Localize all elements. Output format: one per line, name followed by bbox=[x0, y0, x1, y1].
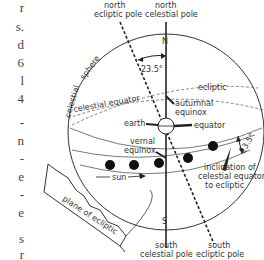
autumnal-pointer bbox=[166, 96, 174, 104]
south-ecliptic-pole-label-2: ecliptic pole bbox=[196, 250, 244, 259]
n-marker: N bbox=[162, 37, 168, 46]
celestial-sphere-diagram: r s. d 6 l 4 - n - e - e s r plane of ec… bbox=[0, 0, 264, 260]
south-ecliptic-pole-label-1: south bbox=[208, 241, 230, 250]
ecliptic-label: ecliptic bbox=[198, 83, 227, 92]
sun-position bbox=[129, 160, 139, 170]
equator-label: equator bbox=[194, 121, 226, 130]
inclination-label-3: to ecliptic bbox=[205, 181, 244, 190]
autumnal-label-1: autumnal bbox=[175, 99, 213, 108]
north-ecliptic-pole-label-2: ecliptic pole bbox=[94, 10, 142, 19]
celestial-equator-label: celestial equator bbox=[73, 93, 141, 114]
sphere-label: sphere bbox=[78, 54, 101, 81]
inclination-label-1: inclination of bbox=[204, 163, 256, 172]
inclination-label-2: celestial equator bbox=[198, 172, 264, 181]
plane-of-ecliptic-label: plane of ecliptic bbox=[61, 194, 119, 236]
diagram-svg: plane of ecliptic 23.5° N S earth equato… bbox=[0, 0, 264, 260]
angle-top-label: 23.5° bbox=[141, 65, 163, 74]
vernal-pointer bbox=[156, 152, 166, 158]
sun-label: sun bbox=[112, 173, 126, 182]
south-celestial-pole-label-1: south bbox=[155, 241, 177, 250]
earth-label: earth bbox=[124, 119, 145, 128]
sheet-corner bbox=[120, 246, 125, 252]
sun-position bbox=[183, 153, 193, 163]
equator-pointer bbox=[174, 125, 192, 126]
ecliptic-front bbox=[72, 135, 255, 157]
north-ecliptic-pole-label-1: north bbox=[104, 1, 125, 10]
south-celestial-pole-label-2: celestial pole bbox=[140, 250, 193, 259]
sheet-edge bbox=[126, 190, 152, 236]
north-celestial-pole-label-1: north bbox=[155, 1, 176, 10]
celestial-label: celestial bbox=[63, 84, 81, 118]
vernal-label-2: equinox bbox=[124, 146, 156, 155]
earth-pointer bbox=[146, 124, 158, 125]
sun-position bbox=[105, 160, 115, 170]
arrowhead bbox=[236, 136, 241, 142]
autumnal-label-2: equinox bbox=[175, 108, 207, 117]
north-celestial-pole-label-2: celestial pole bbox=[145, 10, 198, 19]
vernal-label-1: vernal bbox=[130, 137, 155, 146]
sun-position bbox=[208, 141, 218, 151]
s-marker: S bbox=[162, 217, 167, 226]
angle-right-label: 23.5° bbox=[238, 132, 257, 155]
sun-position bbox=[154, 158, 164, 168]
